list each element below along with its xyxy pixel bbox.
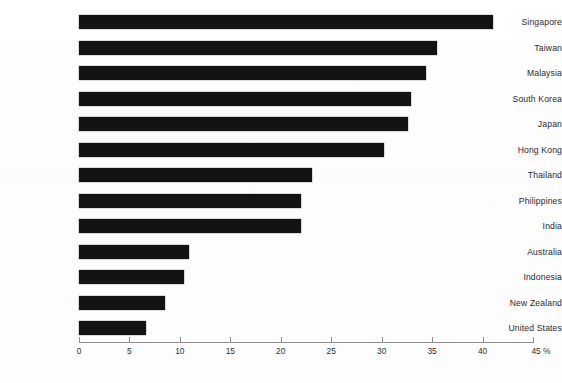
bar (79, 66, 426, 80)
x-tick-label: 35 (427, 346, 436, 356)
x-tick-mark (483, 337, 484, 342)
bar-row (0, 66, 562, 80)
x-tick-label: 25 (327, 346, 336, 356)
x-tick-label: 20 (276, 346, 285, 356)
bar-row (0, 296, 562, 310)
x-axis-line (79, 342, 534, 343)
bar-row (0, 245, 562, 259)
x-tick-mark (129, 337, 130, 342)
x-tick-label: 45 % (531, 346, 550, 356)
bar (79, 321, 146, 335)
x-tick-label: 0 (77, 346, 82, 356)
bar-row (0, 194, 562, 208)
x-tick-mark (230, 337, 231, 342)
bar-row (0, 143, 562, 157)
bar (79, 219, 301, 233)
x-tick-label: 5 (127, 346, 132, 356)
bar (79, 15, 493, 29)
bar-row (0, 41, 562, 55)
bar (79, 245, 189, 259)
bar-row (0, 168, 562, 182)
bar (79, 270, 184, 284)
x-tick-label: 40 (478, 346, 487, 356)
x-tick-mark (331, 337, 332, 342)
bar-row (0, 117, 562, 131)
x-tick-label: 15 (226, 346, 235, 356)
bar (79, 117, 408, 131)
x-tick-mark (79, 337, 80, 342)
plot-area: SingaporeTaiwanMalaysiaSouth KoreaJapanH… (0, 0, 562, 383)
bar-row (0, 92, 562, 106)
bar-row (0, 270, 562, 284)
bar-row (0, 321, 562, 335)
bar-row (0, 15, 562, 29)
bar (79, 296, 165, 310)
x-tick-mark (180, 337, 181, 342)
x-tick-mark (533, 337, 534, 342)
bar (79, 168, 312, 182)
x-tick-mark (281, 337, 282, 342)
bar (79, 194, 301, 208)
bar (79, 41, 437, 55)
x-tick-label: 10 (175, 346, 184, 356)
x-tick-mark (432, 337, 433, 342)
bar (79, 92, 411, 106)
bar-row (0, 219, 562, 233)
bar (79, 143, 384, 157)
x-tick-label: 30 (377, 346, 386, 356)
bar-chart: SingaporeTaiwanMalaysiaSouth KoreaJapanH… (0, 0, 562, 383)
x-tick-mark (382, 337, 383, 342)
